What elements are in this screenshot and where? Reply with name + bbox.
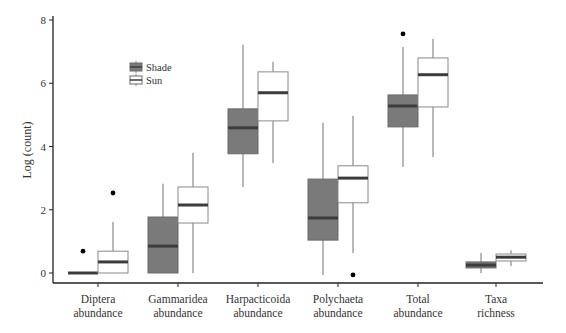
outlier-point	[111, 191, 116, 196]
x-tick-label: abundance	[153, 307, 202, 319]
box	[308, 179, 338, 240]
x-tick-label: Diptera	[81, 293, 115, 306]
x-tick-label: Gammaridea	[148, 293, 207, 305]
legend-item-sun: Sun	[130, 74, 163, 86]
x-tick-label: abundance	[393, 307, 442, 319]
outlier-point	[81, 249, 86, 254]
box	[338, 166, 368, 203]
x-tick-label: Total	[406, 293, 429, 305]
box-shade	[148, 184, 178, 273]
box	[388, 95, 418, 127]
x-tick-label: Harpacticoida	[226, 293, 291, 306]
y-tick-label: 6	[41, 77, 47, 89]
x-tick-label: abundance	[73, 307, 122, 319]
box-shade	[466, 253, 496, 273]
outlier-point	[351, 272, 356, 277]
box-sun	[338, 116, 368, 277]
x-tick-label: richness	[477, 307, 515, 319]
y-tick-label: 4	[41, 141, 47, 153]
y-axis: 02468	[41, 14, 54, 283]
box-shade	[388, 32, 418, 168]
x-tick-label: abundance	[313, 307, 362, 319]
y-tick-label: 2	[41, 204, 47, 216]
box-shade	[228, 45, 258, 187]
box	[228, 109, 258, 154]
y-tick-label: 0	[41, 267, 47, 279]
box-sun	[98, 191, 128, 273]
y-tick-label: 8	[41, 14, 47, 26]
box-sun	[496, 250, 526, 266]
box-sun	[418, 39, 448, 157]
box-shade	[68, 249, 98, 273]
x-tick-label: abundance	[233, 307, 282, 319]
x-axis: DipteraabundanceGammarideaabundanceHarpa…	[53, 283, 543, 319]
box-sun	[178, 153, 208, 273]
box-shade	[308, 123, 338, 275]
y-axis-label: Log (count)	[20, 122, 34, 179]
box	[258, 72, 288, 121]
box-sun	[258, 62, 288, 163]
outlier-point	[401, 32, 406, 37]
box	[418, 58, 448, 107]
legend-label: Sun	[146, 75, 163, 86]
legend-item-shade: Shade	[130, 61, 172, 73]
boxplot-chart: 02468 DipteraabundanceGammarideaabundanc…	[0, 0, 566, 333]
x-tick-label: Taxa	[485, 293, 507, 305]
x-tick-label: Polychaeta	[313, 293, 363, 306]
legend-label: Shade	[146, 62, 172, 73]
legend: ShadeSun	[130, 61, 172, 86]
